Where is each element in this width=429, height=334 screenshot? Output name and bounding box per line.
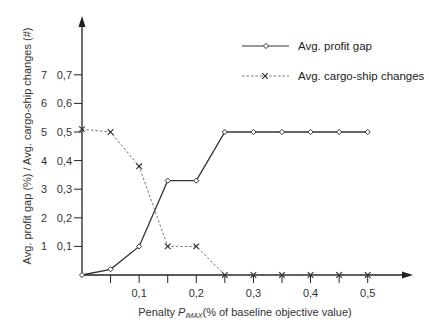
legend: Avg. profit gapAvg. cargo-ship changes: [242, 40, 425, 82]
x-axis-title: Penalty PIMAX(% of baseline objective va…: [138, 306, 351, 319]
x-tick-label: 0,3: [246, 287, 261, 299]
y-axis-arrow-icon: [79, 16, 86, 27]
diamond-marker-icon: [279, 129, 284, 134]
y-tick-label: 0,5: [57, 126, 72, 138]
y-tick-label-count: 4: [41, 155, 47, 167]
series-line-0: [82, 132, 368, 275]
diamond-marker-icon: [263, 43, 268, 48]
x-tick-label: 0,2: [189, 287, 204, 299]
y-tick-label: 0,1: [57, 240, 72, 252]
x-axis-arrow-icon: [402, 272, 413, 279]
diamond-marker-icon: [308, 129, 313, 134]
diamond-marker-icon: [165, 178, 170, 183]
x-tick-label: 0,1: [131, 287, 146, 299]
x-axis-title-subscript: IMAX: [185, 312, 202, 319]
x-axis-title-prefix: Penalty: [138, 306, 178, 318]
x-marker-icon: [108, 129, 114, 135]
axis-ticks: 0,10,20,30,40,50,110,220,330,440,550,660…: [41, 69, 375, 299]
y-axis-title: Avg. profit gap (%) / Avg. cargo-ship ch…: [21, 28, 33, 265]
y-tick-label: 0,3: [57, 183, 72, 195]
line-chart: 0,10,20,30,40,50,110,220,330,440,550,660…: [0, 0, 429, 334]
series-line-1: [82, 129, 368, 275]
y-tick-label-count: 7: [41, 69, 47, 81]
y-tick-label-count: 6: [41, 97, 47, 109]
y-tick-label: 0,2: [57, 212, 72, 224]
y-tick-label-count: 5: [41, 126, 47, 138]
legend-label-0: Avg. profit gap: [298, 40, 372, 52]
x-axis-title-suffix: (% of baseline objective value): [203, 306, 352, 318]
legend-label-1: Avg. cargo-ship changes: [298, 70, 425, 82]
x-tick-label: 0,4: [303, 287, 318, 299]
diamond-marker-icon: [79, 272, 84, 277]
y-tick-label: 0,4: [57, 155, 72, 167]
y-tick-label-count: 1: [41, 240, 47, 252]
x-tick-label: 0,5: [360, 287, 375, 299]
data-series: [79, 126, 370, 277]
diamond-marker-icon: [365, 129, 370, 134]
x-marker-icon: [136, 164, 142, 170]
y-tick-label-count: 2: [41, 212, 47, 224]
y-tick-label: 0,7: [57, 69, 72, 81]
axes: [79, 16, 414, 279]
y-tick-label: 0,6: [57, 97, 72, 109]
y-tick-label-count: 3: [41, 183, 47, 195]
x-marker-icon: [165, 244, 171, 250]
diamond-marker-icon: [251, 129, 256, 134]
diamond-marker-icon: [337, 129, 342, 134]
